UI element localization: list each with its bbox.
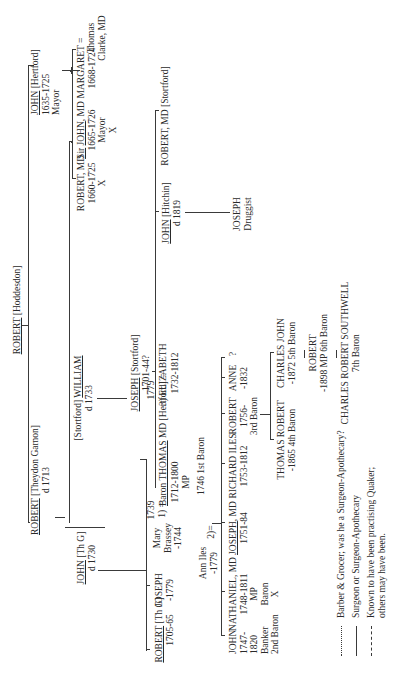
dates: 1635-1725 xyxy=(41,49,52,115)
mark: X xyxy=(108,101,119,159)
connector xyxy=(221,358,222,636)
solid-line-icon xyxy=(356,626,357,656)
dates: 1756- xyxy=(239,397,250,435)
connector xyxy=(336,350,337,358)
mark: X xyxy=(97,155,108,211)
name: ROBERT xyxy=(12,318,22,355)
dates: 1660-1725 xyxy=(87,155,98,211)
connector xyxy=(270,352,271,440)
detail: [Th G] xyxy=(76,532,86,558)
detail: [Hitchin] xyxy=(161,182,171,217)
dashed-line-icon xyxy=(371,626,372,656)
legend-item-solid: Surgeon or Surgeon-Apothecary xyxy=(351,430,362,656)
node-joseph-stortford: JOSEPH [Stortford] 1701-44? xyxy=(130,335,151,412)
node-joseph-md: JOSEPH, MD 1751-84 xyxy=(228,501,249,555)
name: JOSEPH xyxy=(154,573,165,607)
note: Mayor xyxy=(51,49,62,115)
connector xyxy=(146,649,150,650)
connector xyxy=(69,141,72,142)
line1: Thomas xyxy=(86,15,97,60)
dates: 1748-1811 xyxy=(239,557,250,631)
name: ROBERT xyxy=(228,397,239,435)
family-tree-diagram: ROBERT [Hoddesdon] JOHN [Hertford] 1635-… xyxy=(0,0,398,678)
dates: 1705-65 xyxy=(165,597,176,662)
node-thomas-robert: THOMAS ROBERT -1865 4th Baron xyxy=(276,400,297,479)
connector xyxy=(28,65,29,523)
connector xyxy=(221,377,225,378)
node-elizabeth: 3) ELIZABETH xyxy=(158,343,169,406)
name: WILLIAM xyxy=(73,355,83,397)
connector xyxy=(155,211,159,212)
node-ann-iles: Ann Iles -1779 xyxy=(198,547,219,579)
name: ROBERT xyxy=(30,498,40,535)
note1: MP xyxy=(249,557,260,631)
name: ROBERT, MD xyxy=(76,155,87,211)
year: 1739 xyxy=(146,501,157,520)
name: ELIZABETH xyxy=(158,343,168,395)
line2: Clarke, MD xyxy=(97,15,108,60)
legend-label-2: others may have been. xyxy=(377,467,388,618)
legend-label: Known to have been practising Quaker; xyxy=(366,467,377,618)
connector xyxy=(98,570,146,571)
name: ANNE xyxy=(228,365,239,391)
name: MARGARET = xyxy=(76,38,87,99)
node-joseph-druggist: JOSEPH Druggist xyxy=(232,197,253,231)
node-john-hertford: JOHN [Hertford] 1635-1725 Mayor xyxy=(30,49,62,115)
name: ? xyxy=(228,352,239,356)
node-robert-3rd: ROBERT 1756- 3rd Baron xyxy=(228,397,260,435)
dates: 1712-1800 xyxy=(170,461,181,502)
node-robert-md-stortford: ROBERT, MD [Stortford] xyxy=(160,66,171,165)
suffix: , MD xyxy=(76,101,86,121)
connector xyxy=(260,414,270,415)
dates: d 1819 xyxy=(172,182,183,243)
node-charles-robert-southwell: CHARLES ROBERT SOUTHWELL 7th Baron xyxy=(340,282,361,425)
node-john-thg: JOHN [Th G] d 1730 xyxy=(76,532,97,585)
dates: 1665-1726 xyxy=(87,101,98,159)
suffix: , MD xyxy=(228,501,238,521)
name: JOHN xyxy=(30,91,40,115)
node-joseph-1779: JOSEPH -1779 xyxy=(154,573,175,607)
node-anne: ANNE -1832 xyxy=(228,365,249,391)
name: ROBERT xyxy=(308,314,319,392)
node-nathaniel-md: NATHANIEL, MD 1748-1811 MP Baron X xyxy=(228,557,281,631)
line1: Mary xyxy=(152,523,163,553)
marriage-1779: 1779 xyxy=(146,381,157,400)
name: RICHARD ILES xyxy=(228,433,239,498)
name: NATHANIEL, MD xyxy=(228,557,239,631)
mark: X xyxy=(270,557,281,631)
line2: Brassey xyxy=(163,523,174,553)
node-mary-brassey: Mary Brassey -1744 xyxy=(152,523,184,553)
dates: -1744 xyxy=(173,523,184,553)
dates: -1898 MP 6th Baron xyxy=(319,314,330,392)
connector xyxy=(140,459,146,460)
name: THOMAS ROBERT xyxy=(276,400,287,479)
name: Baron THOMAS xyxy=(158,440,168,506)
marker: 2)= xyxy=(206,525,217,538)
legend: Barber & Grocer; was he a Surgeon-Apothe… xyxy=(336,430,392,656)
marker: 3) xyxy=(158,398,168,406)
year: 1779 xyxy=(146,381,157,400)
dates: d 1713 xyxy=(41,425,52,535)
connector xyxy=(97,398,127,399)
dates: 1701-44? xyxy=(141,335,152,412)
connector xyxy=(185,212,230,213)
dates: d 1733 xyxy=(84,355,95,440)
node-robert-hoddesdon: ROBERT [Hoddesdon] xyxy=(12,266,23,355)
connector xyxy=(221,413,225,414)
node-robert-md-1660: ROBERT, MD 1660-1725 X xyxy=(76,155,108,211)
dates: 1753-1812 xyxy=(239,433,250,498)
connector xyxy=(55,517,65,518)
detail: [Hoddesdon] xyxy=(12,266,22,316)
name: ROBERT, MD [Stortford] xyxy=(160,66,171,165)
node-william-stortford: [Stortford] WILLIAM d 1733 xyxy=(73,355,94,440)
connector xyxy=(155,110,156,488)
connector xyxy=(221,357,225,358)
connector xyxy=(221,591,225,592)
name: JOHN xyxy=(76,560,86,584)
marker-2: 2)= xyxy=(206,525,217,538)
node-elizabeth-dates: 1732-1812 xyxy=(170,352,181,393)
name: JOHN xyxy=(161,219,171,243)
dates: -1779 xyxy=(209,547,220,579)
dates: -1779 xyxy=(165,573,176,607)
connector xyxy=(221,635,225,636)
